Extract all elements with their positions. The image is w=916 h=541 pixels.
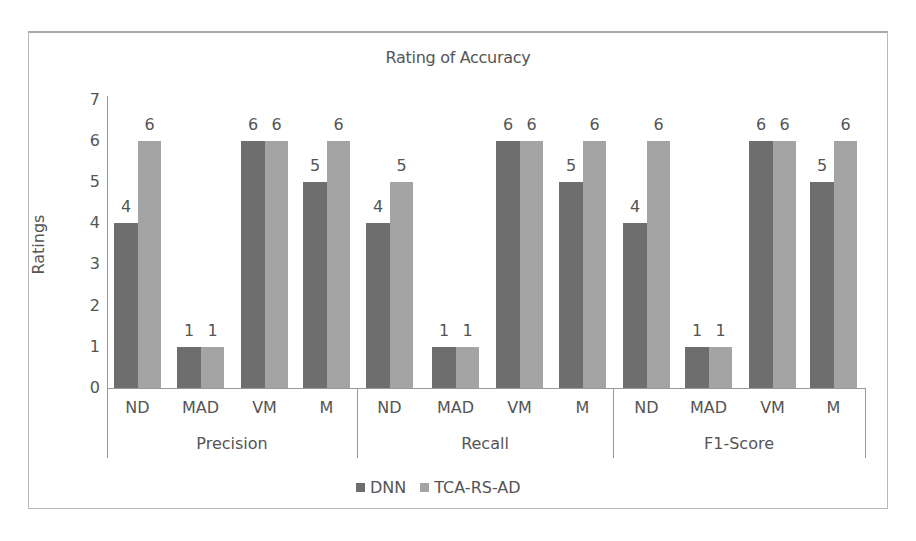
bar-value-label: 6 <box>265 115 289 134</box>
bar-tca-rs-ad <box>456 347 480 388</box>
bar-value-label: 5 <box>303 156 327 175</box>
legend-label-tca-rs-ad: TCA-RS-AD <box>434 478 520 497</box>
bar-value-label: 5 <box>390 156 414 175</box>
x-category-label: ND <box>617 398 677 417</box>
x-category-label: MAD <box>171 398 231 417</box>
bar-tca-rs-ad <box>201 347 225 388</box>
x-group-label: F1-Score <box>614 434 864 453</box>
y-axis-label: Ratings <box>29 205 48 285</box>
bar-value-label: 6 <box>496 115 520 134</box>
bar-tca-rs-ad <box>265 141 289 388</box>
x-category-label: ND <box>360 398 420 417</box>
x-axis-line <box>107 388 865 389</box>
legend-swatch-tca-rs-ad <box>420 483 429 492</box>
x-category-label: M <box>297 398 357 417</box>
bar-dnn <box>685 347 709 388</box>
chart-title: Rating of Accuracy <box>0 48 916 67</box>
bar-tca-rs-ad <box>647 141 671 388</box>
y-tick-label: 4 <box>80 213 100 232</box>
x-category-label: ND <box>108 398 168 417</box>
legend-swatch-dnn <box>356 483 365 492</box>
y-tick-label: 0 <box>80 378 100 397</box>
bar-tca-rs-ad <box>390 182 414 388</box>
bar-dnn <box>623 223 647 388</box>
bar-tca-rs-ad <box>520 141 544 388</box>
x-category-label: VM <box>743 398 803 417</box>
x-category-label: VM <box>490 398 550 417</box>
bar-dnn <box>496 141 520 388</box>
x-group-label: Recall <box>360 434 610 453</box>
y-tick-label: 5 <box>80 172 100 191</box>
bar-value-label: 6 <box>773 115 797 134</box>
bar-dnn <box>303 182 327 388</box>
y-tick-label: 2 <box>80 296 100 315</box>
x-category-label: MAD <box>426 398 486 417</box>
bar-tca-rs-ad <box>709 347 733 388</box>
bar-value-label: 6 <box>834 115 858 134</box>
legend: DNN TCA-RS-AD <box>356 478 535 497</box>
bar-tca-rs-ad <box>583 141 607 388</box>
bar-dnn <box>366 223 390 388</box>
legend-item-tca-rs-ad: TCA-RS-AD <box>420 478 520 497</box>
y-tick-label: 6 <box>80 131 100 150</box>
bar-dnn <box>177 347 201 388</box>
bar-value-label: 1 <box>177 321 201 340</box>
bar-value-label: 5 <box>559 156 583 175</box>
bar-dnn <box>559 182 583 388</box>
legend-item-dnn: DNN <box>356 478 406 497</box>
x-category-label: M <box>553 398 613 417</box>
y-tick-label: 3 <box>80 254 100 273</box>
bar-tca-rs-ad <box>327 141 351 388</box>
group-separator <box>865 388 866 458</box>
bar-value-label: 6 <box>583 115 607 134</box>
bar-tca-rs-ad <box>773 141 797 388</box>
x-category-label: MAD <box>679 398 739 417</box>
bar-value-label: 5 <box>810 156 834 175</box>
y-axis-line <box>107 96 108 388</box>
bar-dnn <box>114 223 138 388</box>
bar-value-label: 4 <box>366 197 390 216</box>
x-group-label: Precision <box>107 434 357 453</box>
bar-value-label: 6 <box>520 115 544 134</box>
bar-dnn <box>241 141 265 388</box>
bar-dnn <box>810 182 834 388</box>
bar-value-label: 1 <box>201 321 225 340</box>
bar-value-label: 4 <box>114 197 138 216</box>
bar-value-label: 1 <box>432 321 456 340</box>
x-category-label: VM <box>235 398 295 417</box>
bar-value-label: 6 <box>327 115 351 134</box>
bar-dnn <box>432 347 456 388</box>
legend-label-dnn: DNN <box>370 478 406 497</box>
bar-tca-rs-ad <box>138 141 162 388</box>
group-separator <box>357 388 358 458</box>
bar-value-label: 1 <box>685 321 709 340</box>
bar-value-label: 1 <box>456 321 480 340</box>
bar-value-label: 4 <box>623 197 647 216</box>
x-category-label: M <box>804 398 864 417</box>
bar-tca-rs-ad <box>834 141 858 388</box>
bar-value-label: 6 <box>749 115 773 134</box>
y-tick-label: 1 <box>80 337 100 356</box>
bar-value-label: 6 <box>138 115 162 134</box>
bar-value-label: 1 <box>709 321 733 340</box>
bar-dnn <box>749 141 773 388</box>
bar-value-label: 6 <box>241 115 265 134</box>
bar-value-label: 6 <box>647 115 671 134</box>
y-tick-label: 7 <box>80 90 100 109</box>
